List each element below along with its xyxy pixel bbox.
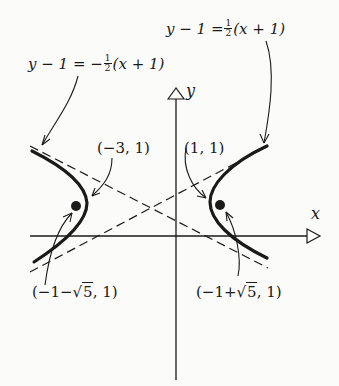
- asymptote-negative-eq: =: [73, 55, 86, 73]
- asymptote-negative-lhs: y − 1: [28, 55, 68, 73]
- y-axis: [168, 88, 184, 380]
- hyperbola-figure: y x y − 1 =12(x + 1) y − 1 = −12(x + 1) …: [0, 0, 339, 386]
- leader-negative-asymptote: [42, 76, 78, 145]
- focus-right-label: (−1+√5, 1): [196, 285, 282, 300]
- asymptote-positive-label: y − 1 =12(x + 1): [166, 20, 285, 39]
- asymptote-negative-fraction: 12: [104, 54, 112, 73]
- vertex-left-label: (−3, 1): [97, 141, 150, 156]
- asymptote-positive-eq: =: [211, 20, 224, 38]
- asymptote-negative-rhs: (x + 1): [113, 55, 165, 73]
- leader-focus-right: [226, 212, 239, 276]
- y-axis-arrow-icon: [168, 88, 184, 99]
- focus-left-label: (−1−√5, 1): [32, 285, 118, 300]
- asymptote-positive-lhs: y − 1: [166, 20, 206, 38]
- focus-left-suffix: , 1): [93, 283, 118, 301]
- vertex-right-label: (1, 1): [184, 141, 224, 156]
- leader-positive-asymptote: [264, 41, 271, 143]
- asymptote-positive-fraction: 12: [224, 19, 232, 38]
- focus-right-suffix: , 1): [257, 283, 282, 301]
- fraction-denominator: 2: [104, 64, 112, 73]
- focus-right-radicand: 5: [246, 282, 257, 301]
- asymptote-positive-slope: [30, 146, 268, 272]
- fraction-denominator: 2: [224, 29, 232, 38]
- focus-right-prefix: (−1+: [196, 283, 237, 301]
- focus-left-dot: [71, 201, 81, 211]
- asymptote-positive-rhs: (x + 1): [233, 20, 285, 38]
- focus-right-sqrt: √5: [237, 285, 257, 300]
- leader-focus-left: [45, 213, 72, 285]
- leader-negative-asymptote-arrow-icon: [42, 135, 50, 145]
- focus-right-dot: [215, 200, 225, 210]
- y-axis-label: y: [186, 83, 195, 99]
- focus-left-sqrt: √5: [73, 285, 93, 300]
- asymptote-negative-label: y − 1 = −12(x + 1): [28, 55, 164, 74]
- x-axis-arrow-icon: [307, 229, 320, 243]
- leader-vertex-left: [92, 158, 112, 196]
- asymptote-negative-sign: −: [90, 55, 103, 73]
- focus-left-prefix: (−1−: [32, 283, 73, 301]
- x-axis-label: x: [311, 206, 320, 222]
- focus-left-radicand: 5: [82, 282, 93, 301]
